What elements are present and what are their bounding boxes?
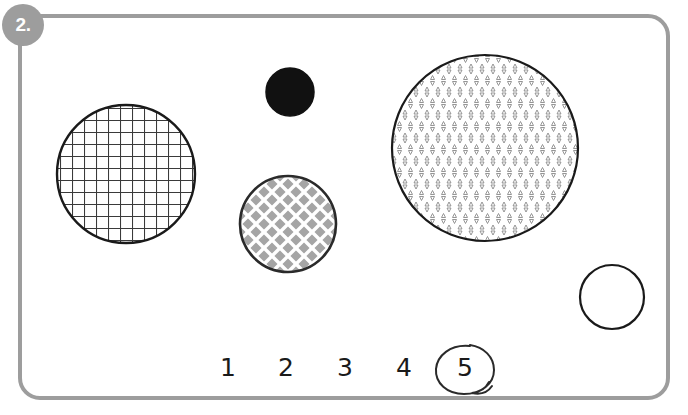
answer-choice-2-label: 2 (278, 353, 294, 382)
worksheet-canvas: 2. (0, 0, 688, 415)
solid-black-circle (266, 68, 314, 116)
answer-choice-1[interactable]: 1 (213, 353, 243, 383)
step-number-label: 2. (16, 14, 31, 36)
answer-choice-2[interactable]: 2 (271, 353, 301, 383)
answer-choice-5-label: 5 (457, 353, 473, 382)
answer-choice-3-label: 3 (337, 353, 353, 382)
answer-choice-5[interactable]: 5 (450, 353, 480, 383)
answer-choice-4-label: 4 (396, 353, 412, 382)
empty-outline-circle (580, 265, 644, 329)
step-number-badge: 2. (2, 4, 44, 46)
answer-choice-3[interactable]: 3 (330, 353, 360, 383)
answer-choice-4[interactable]: 4 (389, 353, 419, 383)
diamond-lattice-circle (240, 176, 336, 272)
triangle-tiled-circle (392, 55, 578, 241)
grid-hatched-circle (57, 105, 195, 243)
answer-choice-1-label: 1 (220, 353, 236, 382)
